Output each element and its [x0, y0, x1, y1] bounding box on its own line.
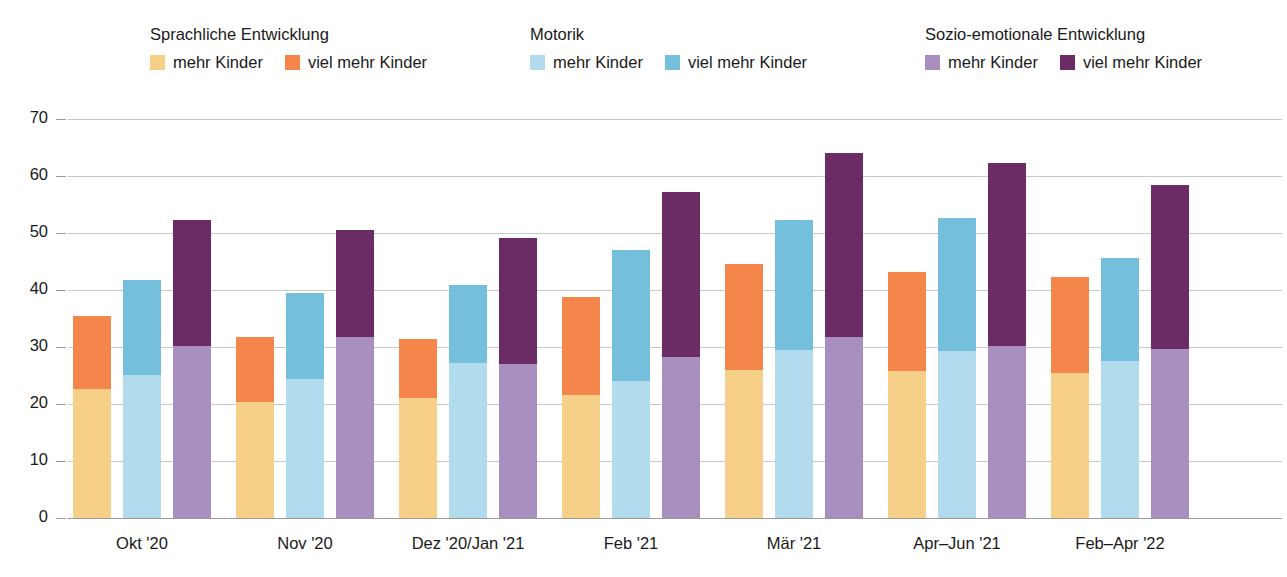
bar-segment-mehr-kinder[interactable] — [662, 357, 700, 518]
x-axis-tick-label: Okt '20 — [116, 534, 168, 553]
bar-segment-mehr-kinder[interactable] — [1101, 361, 1139, 518]
bar-segment-mehr-kinder[interactable] — [725, 370, 763, 518]
bar-sprachlich-3[interactable] — [562, 297, 600, 518]
bar-segment-mehr-kinder[interactable] — [612, 381, 650, 518]
bar-sozio-6[interactable] — [1151, 185, 1189, 518]
bar-segment-viel-mehr-kinder[interactable] — [662, 192, 700, 357]
bar-segment-mehr-kinder[interactable] — [123, 375, 161, 518]
bar-segment-mehr-kinder[interactable] — [1051, 373, 1089, 518]
bar-segment-mehr-kinder[interactable] — [562, 395, 600, 518]
gridline — [68, 176, 1282, 177]
bar-segment-viel-mehr-kinder[interactable] — [988, 163, 1026, 346]
bar-segment-viel-mehr-kinder[interactable] — [123, 280, 161, 375]
axis-baseline — [68, 518, 1282, 519]
y-axis-tick-mark — [56, 290, 66, 291]
y-axis-tick-label: 30 — [8, 336, 48, 355]
bar-segment-mehr-kinder[interactable] — [336, 337, 374, 518]
bar-segment-mehr-kinder[interactable] — [449, 363, 487, 518]
bar-segment-viel-mehr-kinder[interactable] — [562, 297, 600, 395]
bar-sozio-1[interactable] — [336, 230, 374, 518]
bar-segment-mehr-kinder[interactable] — [499, 364, 537, 518]
bar-sprachlich-0[interactable] — [73, 316, 111, 518]
x-axis-tick-label: Feb–Apr '22 — [1075, 534, 1164, 553]
y-axis-tick-mark — [56, 461, 66, 462]
x-axis-tick-label: Mär '21 — [767, 534, 822, 553]
bar-segment-mehr-kinder[interactable] — [775, 350, 813, 518]
bar-motorik-1[interactable] — [286, 293, 324, 518]
bar-sprachlich-1[interactable] — [236, 337, 274, 518]
bar-segment-viel-mehr-kinder[interactable] — [173, 220, 211, 345]
bar-segment-viel-mehr-kinder[interactable] — [1101, 258, 1139, 361]
bar-sprachlich-6[interactable] — [1051, 277, 1089, 518]
bar-segment-mehr-kinder[interactable] — [173, 346, 211, 518]
bar-motorik-3[interactable] — [612, 250, 650, 518]
y-axis-tick-mark — [56, 404, 66, 405]
y-axis-tick-label: 10 — [8, 450, 48, 469]
bar-segment-viel-mehr-kinder[interactable] — [449, 285, 487, 363]
y-axis-tick-label: 0 — [8, 507, 48, 526]
x-axis-tick-label: Dez '20/Jan '21 — [412, 534, 525, 553]
bar-sprachlich-2[interactable] — [399, 339, 437, 518]
bar-segment-viel-mehr-kinder[interactable] — [725, 264, 763, 370]
y-axis-tick-label: 20 — [8, 393, 48, 412]
y-axis-tick-label: 70 — [8, 108, 48, 127]
bar-segment-mehr-kinder[interactable] — [73, 389, 111, 518]
gridline — [68, 119, 1282, 120]
bar-segment-mehr-kinder[interactable] — [825, 337, 863, 518]
bar-segment-viel-mehr-kinder[interactable] — [888, 272, 926, 371]
bar-motorik-4[interactable] — [775, 220, 813, 518]
bar-motorik-6[interactable] — [1101, 258, 1139, 518]
y-axis-tick-label: 60 — [8, 165, 48, 184]
chart-plot-area: 010203040506070Okt '20Nov '20Dez '20/Jan… — [0, 0, 1287, 577]
bar-segment-viel-mehr-kinder[interactable] — [775, 220, 813, 349]
x-axis-tick-label: Feb '21 — [604, 534, 659, 553]
bar-segment-mehr-kinder[interactable] — [988, 346, 1026, 518]
bar-segment-viel-mehr-kinder[interactable] — [938, 218, 976, 351]
bar-sprachlich-5[interactable] — [888, 272, 926, 518]
bar-segment-viel-mehr-kinder[interactable] — [1151, 185, 1189, 349]
bar-segment-viel-mehr-kinder[interactable] — [499, 238, 537, 365]
bar-segment-viel-mehr-kinder[interactable] — [399, 339, 437, 398]
bar-segment-mehr-kinder[interactable] — [236, 402, 274, 518]
y-axis-tick-label: 50 — [8, 222, 48, 241]
bar-motorik-5[interactable] — [938, 218, 976, 518]
bar-segment-mehr-kinder[interactable] — [938, 351, 976, 518]
bar-segment-mehr-kinder[interactable] — [888, 371, 926, 518]
bar-segment-viel-mehr-kinder[interactable] — [73, 316, 111, 388]
bar-sozio-2[interactable] — [499, 238, 537, 518]
y-axis-tick-mark — [56, 233, 66, 234]
y-axis-tick-label: 40 — [8, 279, 48, 298]
x-axis-tick-label: Apr–Jun '21 — [913, 534, 1001, 553]
bar-segment-viel-mehr-kinder[interactable] — [286, 293, 324, 380]
y-axis-tick-mark — [56, 176, 66, 177]
y-axis-tick-mark — [56, 347, 66, 348]
bar-segment-mehr-kinder[interactable] — [399, 398, 437, 518]
bar-segment-mehr-kinder[interactable] — [286, 379, 324, 518]
bar-segment-viel-mehr-kinder[interactable] — [1051, 277, 1089, 373]
bar-segment-viel-mehr-kinder[interactable] — [825, 153, 863, 337]
y-axis-tick-mark — [56, 518, 66, 519]
bar-segment-viel-mehr-kinder[interactable] — [236, 337, 274, 401]
bar-segment-viel-mehr-kinder[interactable] — [612, 250, 650, 381]
bar-sozio-3[interactable] — [662, 192, 700, 518]
y-axis-tick-mark — [56, 119, 66, 120]
bar-motorik-0[interactable] — [123, 280, 161, 518]
bar-sprachlich-4[interactable] — [725, 264, 763, 518]
x-axis-tick-label: Nov '20 — [277, 534, 332, 553]
bar-sozio-4[interactable] — [825, 153, 863, 518]
bar-segment-viel-mehr-kinder[interactable] — [336, 230, 374, 337]
bar-motorik-2[interactable] — [449, 285, 487, 518]
bar-sozio-5[interactable] — [988, 163, 1026, 518]
bar-sozio-0[interactable] — [173, 220, 211, 518]
bar-segment-mehr-kinder[interactable] — [1151, 349, 1189, 518]
